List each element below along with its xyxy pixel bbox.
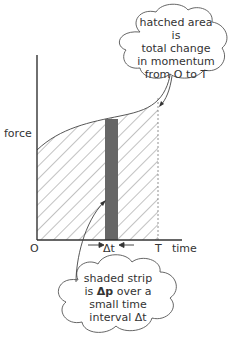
origin-label: O (30, 242, 39, 255)
callout-text-bottom: shaded strip is Δp over a small time int… (76, 272, 160, 324)
callout-text-top: hatched area is total change in momentum… (134, 16, 218, 81)
y-axis-label: force (4, 127, 32, 140)
hatched-area (37, 90, 158, 240)
x-axis-label: time (172, 242, 197, 255)
t-label: T (155, 242, 162, 255)
delta-t-label: Δt (103, 242, 115, 255)
shaded-strip (105, 119, 118, 240)
